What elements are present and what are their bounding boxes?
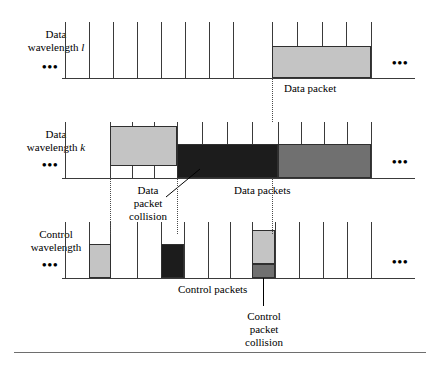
guide-right-collision — [177, 178, 178, 234]
slot-tick — [347, 222, 348, 278]
row-label-data-wavelength-k: Data wavelength k — [8, 128, 104, 154]
data-packet-label: Data packet — [284, 82, 336, 95]
row-label-line1: Data — [46, 128, 67, 140]
slot-tick — [161, 22, 162, 78]
guide-left-collision — [110, 178, 111, 234]
row-label-line2: wavelength — [31, 241, 82, 253]
slot-tick — [137, 22, 138, 78]
footer-divider — [14, 352, 426, 353]
slot-tick — [65, 122, 66, 178]
control-packet-collision-label: Control packet collision — [234, 310, 294, 349]
row-label-line2: wavelength — [28, 41, 79, 53]
control-packet-collision-bottom — [252, 264, 275, 278]
packet-collision-timing-diagram: Data wavelength l ••• ••• Data packet Da… — [0, 0, 438, 368]
left-ellipsis-row-2: ••• — [42, 158, 59, 171]
slot-tick — [275, 222, 276, 278]
row-label-line1: Control — [39, 228, 73, 240]
baseline-row-2 — [62, 178, 415, 179]
right-ellipsis-row-3: ••• — [392, 255, 409, 268]
right-ellipsis-row-1: ••• — [392, 56, 409, 69]
slot-tick — [209, 22, 210, 78]
row-label-line1: Data — [46, 28, 67, 40]
slot-tick — [208, 222, 209, 278]
data-packet-medium-k — [278, 144, 371, 178]
slot-tick — [65, 222, 66, 278]
slot-tick — [371, 22, 372, 78]
row-label-line2: wavelength — [27, 141, 78, 153]
baseline-row-1 — [62, 78, 415, 79]
slot-tick — [230, 222, 231, 278]
control-packet-dark — [161, 244, 184, 278]
leader-control-packet-collision — [263, 278, 264, 306]
left-ellipsis-row-1: ••• — [42, 60, 59, 73]
control-packet-collision-top — [252, 230, 275, 264]
leader-data-packet-collision — [160, 165, 208, 201]
slot-tick — [371, 122, 372, 178]
data-packet-light-k — [110, 126, 177, 166]
slot-tick — [113, 22, 114, 78]
data-packets-label: Data packets — [234, 184, 291, 197]
slot-tick — [185, 22, 186, 78]
baseline-row-3 — [62, 278, 415, 279]
slot-tick — [65, 22, 66, 78]
control-packet-light — [89, 244, 111, 278]
slot-tick — [299, 222, 300, 278]
slot-tick — [137, 222, 138, 278]
right-ellipsis-row-2: ••• — [392, 155, 409, 168]
guide-packet-start-mid — [272, 178, 273, 234]
row-label-symbol: k — [80, 141, 85, 153]
slot-tick — [89, 22, 90, 78]
guide-packet-start-top — [272, 78, 273, 122]
slot-tick — [184, 222, 185, 278]
data-packet — [272, 46, 371, 78]
slot-tick — [323, 222, 324, 278]
left-ellipsis-row-3: ••• — [42, 258, 59, 271]
slot-tick — [371, 222, 372, 278]
slot-tick — [233, 22, 234, 78]
control-packets-label: Control packets — [178, 283, 247, 296]
row-label-symbol: l — [81, 41, 84, 53]
